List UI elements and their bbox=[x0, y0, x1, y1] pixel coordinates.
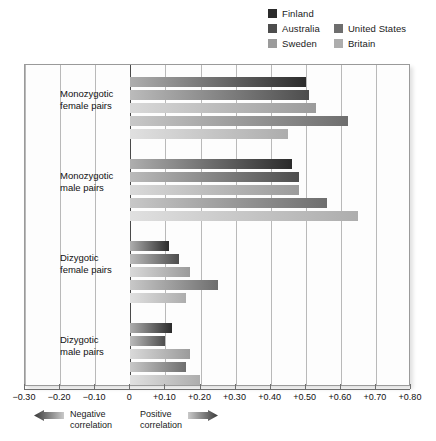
legend-label-sweden: Sweden bbox=[282, 38, 317, 49]
gridline bbox=[236, 65, 237, 385]
x-tick bbox=[129, 384, 130, 389]
gridline bbox=[376, 65, 377, 385]
gridline bbox=[341, 65, 342, 385]
bar-united-states-2 bbox=[130, 280, 218, 290]
bar-britain-3 bbox=[130, 375, 200, 385]
category-label-0: Monozygoticfemale pairs bbox=[60, 88, 113, 111]
x-tick-label: +0.70 bbox=[364, 392, 387, 402]
legend-swatch-britain bbox=[334, 39, 343, 48]
bar-britain-1 bbox=[130, 211, 358, 221]
legend-label-united-states: United States bbox=[348, 23, 406, 34]
gridline bbox=[306, 65, 307, 385]
x-tick bbox=[24, 384, 25, 389]
category-label-3: Dizygoticmale pairs bbox=[60, 334, 104, 357]
legend-label-britain: Britain bbox=[348, 38, 376, 49]
bar-sweden-1 bbox=[130, 185, 298, 195]
right-arrow-icon bbox=[188, 410, 218, 421]
gridline bbox=[165, 65, 166, 385]
x-tick-label: −0.20 bbox=[48, 392, 71, 402]
x-tick bbox=[164, 384, 165, 389]
x-tick-label: 0 bbox=[127, 392, 132, 402]
x-tick bbox=[270, 384, 271, 389]
category-label-line: male pairs bbox=[60, 182, 113, 194]
bar-finland-2 bbox=[130, 241, 169, 251]
bar-britain-2 bbox=[130, 293, 186, 303]
category-label-line: female pairs bbox=[60, 100, 113, 112]
negative-correlation-note: Negative correlation bbox=[34, 409, 112, 431]
legend-swatch-australia bbox=[268, 24, 277, 33]
bar-united-states-1 bbox=[130, 198, 327, 208]
x-tick-label: +0.60 bbox=[328, 392, 351, 402]
bar-finland-1 bbox=[130, 159, 291, 169]
chart-legend: Finland Australia United States Sweden B… bbox=[268, 8, 406, 49]
bar-australia-2 bbox=[130, 254, 179, 264]
x-tick bbox=[94, 384, 95, 389]
gridline bbox=[201, 65, 202, 385]
bar-finland-3 bbox=[130, 323, 172, 333]
bar-australia-1 bbox=[130, 172, 298, 182]
legend-item-united-states: United States bbox=[334, 23, 406, 34]
chart-page: Finland Australia United States Sweden B… bbox=[0, 0, 436, 441]
legend-swatch-finland bbox=[268, 9, 277, 18]
category-label-1: Monozygoticmale pairs bbox=[60, 170, 113, 193]
x-tick-label: +0.20 bbox=[188, 392, 211, 402]
legend-label-finland: Finland bbox=[282, 8, 314, 19]
positive-correlation-text: Positive correlation bbox=[140, 409, 182, 431]
legend-item-australia: Australia bbox=[268, 23, 320, 34]
bar-sweden-0 bbox=[130, 103, 316, 113]
category-label-2: Dizygoticfemale pairs bbox=[60, 252, 112, 275]
left-arrow-icon bbox=[34, 410, 64, 421]
legend-spacer bbox=[334, 8, 406, 19]
negative-line-2: correlation bbox=[70, 420, 112, 431]
bar-finland-0 bbox=[130, 77, 306, 87]
bar-britain-0 bbox=[130, 129, 288, 139]
negative-line-1: Negative bbox=[70, 409, 112, 420]
category-label-line: male pairs bbox=[60, 346, 104, 358]
x-tick bbox=[200, 384, 201, 389]
x-tick-label: +0.30 bbox=[223, 392, 246, 402]
gridline bbox=[25, 65, 26, 385]
x-tick bbox=[340, 384, 341, 389]
x-tick-label: −0.10 bbox=[83, 392, 106, 402]
x-tick bbox=[235, 384, 236, 389]
x-tick-label: +0.10 bbox=[153, 392, 176, 402]
legend-item-finland: Finland bbox=[268, 8, 320, 19]
category-label-line: female pairs bbox=[60, 264, 112, 276]
legend-swatch-sweden bbox=[268, 39, 277, 48]
x-tick-label: +0.80 bbox=[399, 392, 422, 402]
x-tick bbox=[410, 384, 411, 389]
category-label-line: Monozygotic bbox=[60, 88, 113, 100]
category-label-line: Monozygotic bbox=[60, 170, 113, 182]
negative-correlation-text: Negative correlation bbox=[70, 409, 112, 431]
legend-item-sweden: Sweden bbox=[268, 38, 320, 49]
positive-correlation-note: Positive correlation bbox=[140, 409, 218, 431]
bar-australia-0 bbox=[130, 90, 309, 100]
x-tick bbox=[59, 384, 60, 389]
x-tick bbox=[375, 384, 376, 389]
legend-swatch-united-states bbox=[334, 24, 343, 33]
bar-united-states-3 bbox=[130, 362, 186, 372]
x-tick-label: +0.40 bbox=[258, 392, 281, 402]
positive-line-2: correlation bbox=[140, 420, 182, 431]
category-label-line: Dizygotic bbox=[60, 334, 104, 346]
category-label-line: Dizygotic bbox=[60, 252, 112, 264]
bar-australia-3 bbox=[130, 336, 165, 346]
x-tick-label: −0.30 bbox=[13, 392, 36, 402]
x-axis-line bbox=[24, 389, 410, 390]
bar-sweden-2 bbox=[130, 267, 190, 277]
x-tick bbox=[305, 384, 306, 389]
legend-label-australia: Australia bbox=[282, 23, 320, 34]
legend-item-britain: Britain bbox=[334, 38, 406, 49]
gridline bbox=[271, 65, 272, 385]
bar-united-states-0 bbox=[130, 116, 348, 126]
positive-line-1: Positive bbox=[140, 409, 182, 420]
x-tick-label: +0.50 bbox=[293, 392, 316, 402]
bar-sweden-3 bbox=[130, 349, 190, 359]
